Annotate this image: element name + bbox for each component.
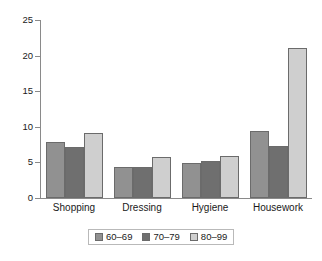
bar-group bbox=[250, 20, 307, 198]
bar-group bbox=[114, 20, 171, 198]
bar bbox=[182, 163, 201, 198]
legend-item[interactable]: 80–99 bbox=[190, 232, 227, 242]
y-axis-tick-label: 15 bbox=[2, 86, 33, 96]
x-axis-category-label: Housework bbox=[233, 202, 322, 213]
legend-label: 80–99 bbox=[201, 232, 227, 242]
y-axis-tick-label: 20 bbox=[2, 51, 33, 61]
bar-group bbox=[182, 20, 239, 198]
legend-label: 60–69 bbox=[106, 232, 132, 242]
bar bbox=[220, 156, 239, 198]
y-axis-tick-label: 25 bbox=[2, 15, 33, 25]
legend-item[interactable]: 60–69 bbox=[95, 232, 132, 242]
chart-legend: 60–6970–7980–99 bbox=[88, 229, 234, 245]
y-axis-tick bbox=[35, 198, 40, 199]
bar bbox=[152, 157, 171, 198]
legend-swatch-icon bbox=[190, 233, 198, 241]
bar bbox=[133, 167, 152, 198]
bar bbox=[288, 48, 307, 198]
bar-group bbox=[46, 20, 103, 198]
bar bbox=[65, 147, 84, 198]
y-axis-tick-label: 5 bbox=[2, 157, 33, 167]
bar bbox=[46, 142, 65, 198]
y-axis-tick-label: 10 bbox=[2, 122, 33, 132]
legend-item[interactable]: 70–79 bbox=[142, 232, 179, 242]
plot-area bbox=[40, 20, 312, 198]
legend-swatch-icon bbox=[142, 233, 150, 241]
bar-chart: 0510152025 ShoppingDressingHygieneHousew… bbox=[0, 0, 322, 261]
legend-label: 70–79 bbox=[153, 232, 179, 242]
legend-swatch-icon bbox=[95, 233, 103, 241]
bar bbox=[84, 133, 103, 199]
bar bbox=[250, 131, 269, 198]
x-axis-line bbox=[40, 198, 312, 199]
bar bbox=[269, 146, 288, 198]
bar bbox=[114, 167, 133, 198]
bar bbox=[201, 161, 220, 198]
